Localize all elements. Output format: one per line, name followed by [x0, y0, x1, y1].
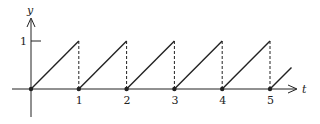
sawtooth-segment [270, 67, 292, 89]
sawtooth-segment [222, 41, 270, 89]
x-tick-label: 1 [76, 94, 83, 107]
data-point [29, 87, 33, 91]
data-point [220, 87, 224, 91]
y-axis-label: y [26, 4, 34, 17]
sawtooth-segment [127, 41, 175, 89]
x-tick-label: 5 [267, 94, 274, 107]
data-point [172, 87, 176, 91]
x-tick-label: 3 [171, 94, 178, 107]
x-axis-label: t [302, 83, 307, 96]
x-tick-label: 2 [124, 94, 131, 107]
sawtooth-chart: y t 1 12345 [0, 0, 320, 124]
data-point [77, 87, 81, 91]
x-tick-label: 4 [219, 94, 226, 107]
sawtooth-segment [31, 41, 79, 89]
data-point [268, 87, 272, 91]
sawtooth-segment [174, 41, 222, 89]
sawtooth-segment [79, 41, 127, 89]
data-point [124, 87, 128, 91]
y-tick-label-1: 1 [20, 35, 27, 48]
